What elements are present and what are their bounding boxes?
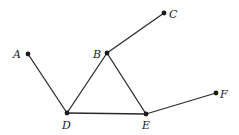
node-d-dot xyxy=(65,111,70,116)
node-a-dot xyxy=(26,52,31,57)
graph-diagram: ABCDEF xyxy=(0,0,239,135)
edge-b-c xyxy=(107,13,164,53)
edge-d-b xyxy=(67,53,107,113)
node-f-label: F xyxy=(219,88,228,101)
node-d-label: D xyxy=(61,119,71,132)
edges-group xyxy=(28,13,216,114)
node-a-label: A xyxy=(12,48,21,61)
node-c-dot xyxy=(162,11,167,16)
node-c-label: C xyxy=(169,8,178,21)
node-e-dot xyxy=(144,112,149,117)
node-b-label: B xyxy=(92,48,101,61)
edge-b-e xyxy=(107,53,146,114)
edge-d-e xyxy=(67,113,146,114)
edge-a-d xyxy=(28,54,67,113)
node-b-dot xyxy=(105,51,110,56)
node-f-dot xyxy=(214,91,219,96)
edge-e-f xyxy=(146,93,216,114)
node-e-label: E xyxy=(141,119,150,132)
